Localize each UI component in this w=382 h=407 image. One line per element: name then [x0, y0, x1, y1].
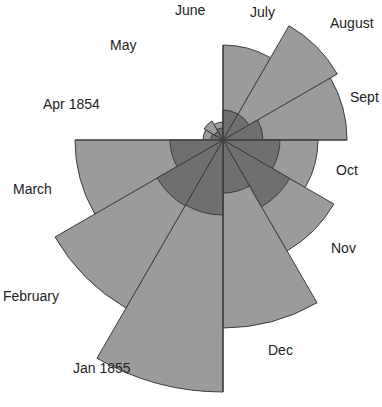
month-label: February: [3, 288, 59, 304]
month-label: Jan 1855: [73, 360, 131, 376]
month-label: Sept: [350, 89, 379, 105]
month-label: Dec: [268, 342, 293, 358]
month-label: Apr 1854: [43, 96, 100, 112]
month-label: June: [175, 2, 205, 18]
month-label: March: [13, 181, 52, 197]
polar-area-chart: [0, 0, 382, 407]
month-label: May: [110, 37, 136, 53]
month-label: Nov: [331, 240, 356, 256]
month-label: Oct: [336, 162, 358, 178]
month-label: July: [250, 4, 275, 20]
month-label: August: [330, 15, 374, 31]
